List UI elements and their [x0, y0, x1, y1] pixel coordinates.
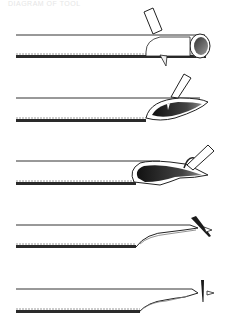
blade-icon	[171, 74, 191, 98]
panel-3	[16, 145, 214, 185]
triangle-fragment-icon	[207, 291, 214, 295]
blade-icon	[201, 280, 204, 302]
panel-1	[16, 8, 210, 66]
panel-2	[16, 74, 208, 122]
panel-5	[16, 280, 214, 313]
panel-4	[16, 216, 212, 248]
tube-cutting-diagram	[0, 0, 235, 331]
